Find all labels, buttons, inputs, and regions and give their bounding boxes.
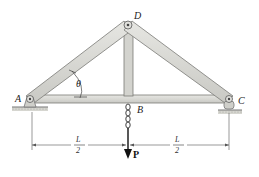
dimension-label-left: L 2 xyxy=(74,135,85,155)
dimension-label-right: L 2 xyxy=(173,135,184,155)
chain xyxy=(126,104,130,128)
pin-d xyxy=(124,21,132,29)
load-arrow-icon xyxy=(124,128,132,159)
svg-text:2: 2 xyxy=(175,146,179,155)
svg-text:L: L xyxy=(174,135,180,144)
svg-text:L: L xyxy=(75,135,81,144)
joint-label-c: C xyxy=(238,95,245,106)
truss-diagram: θ P L xyxy=(0,0,259,177)
angle-theta-label: θ xyxy=(76,78,81,89)
joint-label-b: B xyxy=(137,104,143,115)
ground-c xyxy=(218,110,242,114)
joint-label-d: D xyxy=(133,10,142,21)
rocker-support-c xyxy=(224,96,234,110)
ground-a xyxy=(12,107,48,111)
svg-text:2: 2 xyxy=(76,146,80,155)
member-db xyxy=(124,26,133,96)
member-dc xyxy=(124,21,233,103)
load-label-p: P xyxy=(133,149,139,160)
joint-label-a: A xyxy=(14,93,22,104)
member-ad xyxy=(26,21,132,103)
